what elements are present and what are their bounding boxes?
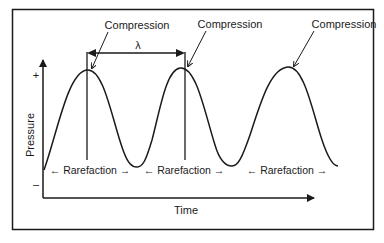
pressure-wave <box>44 67 338 170</box>
compression-pointer-3 <box>294 31 314 66</box>
compression-label-1: Compression <box>105 19 170 31</box>
wavelength-arrowhead-left <box>87 49 96 57</box>
rarefaction-label-3: ← Rarefaction → <box>247 164 328 176</box>
rarefaction-label-2: ← Rarefaction → <box>144 164 225 176</box>
diagram-frame <box>13 10 374 230</box>
compression-label-3: Compression <box>312 18 377 30</box>
rarefaction-label-1: ← Rarefaction → <box>50 164 131 176</box>
y-axis-minus: – <box>33 178 40 190</box>
wavelength-label: λ <box>135 39 141 51</box>
y-axis-plus: + <box>33 69 39 81</box>
compression-label-2: Compression <box>198 18 263 30</box>
y-axis-label: Pressure <box>24 113 36 157</box>
wavelength-arrowhead-right <box>176 49 185 57</box>
sound-wave-diagram: + – Pressure Time λ Compression Compress… <box>0 0 384 243</box>
compression-pointer-2 <box>188 31 206 66</box>
x-axis-label: Time <box>174 204 198 216</box>
